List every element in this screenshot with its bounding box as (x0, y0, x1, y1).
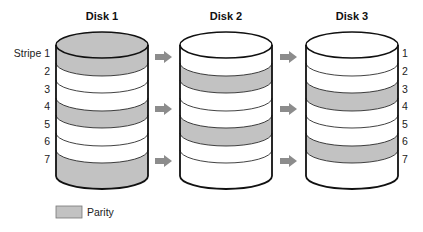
stripe-label-left-6: 6 (44, 135, 50, 147)
arrow-icon-1-2 (155, 103, 172, 115)
raid-diagram: Disk 1 Disk 2 Disk 3 Stripe 1 2 3 4 5 6 … (0, 0, 423, 232)
disk-3-cylinder (306, 32, 398, 189)
arrow-icon-2-3 (280, 155, 297, 167)
stripe-label-left-3: 3 (44, 83, 50, 95)
disk-2-cylinder (180, 32, 272, 189)
disk-2-top (180, 32, 272, 58)
stripe-label-left-7: 7 (44, 153, 50, 165)
legend-parity-swatch (56, 206, 82, 218)
arrow-icon-1-3 (155, 155, 172, 167)
disk-1-cylinder (56, 32, 148, 189)
stripe-label-left-4: 4 (44, 100, 50, 112)
arrow-icon-2-1 (280, 51, 297, 63)
arrow-icon-2-2 (280, 103, 297, 115)
stripe-label-right-2: 2 (402, 65, 408, 77)
legend-parity-label: Parity (87, 206, 115, 218)
stripe-label-right-6: 6 (402, 135, 408, 147)
stripe-label-right-3: 3 (402, 83, 408, 95)
disk-3-title: Disk 3 (336, 10, 368, 22)
stripe-label-left-5: 5 (44, 118, 50, 130)
stripe-label-left-1: Stripe 1 (14, 47, 50, 59)
stripe-label-right-1: 1 (402, 47, 408, 59)
disk-3-top (306, 32, 398, 58)
stripe-label-right-4: 4 (402, 100, 408, 112)
disk-1-title: Disk 1 (86, 10, 118, 22)
stripe-label-left-2: 2 (44, 65, 50, 77)
disk-2-title: Disk 2 (210, 10, 242, 22)
arrow-icon-1-1 (155, 51, 172, 63)
disk-1-top (56, 32, 148, 58)
stripe-label-right-7: 7 (402, 153, 408, 165)
stripe-label-right-5: 5 (402, 118, 408, 130)
